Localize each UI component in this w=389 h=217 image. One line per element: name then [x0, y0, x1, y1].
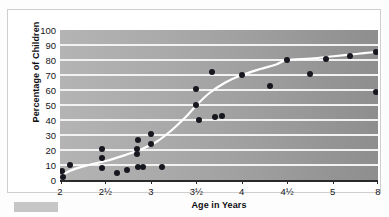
data-point [209, 69, 215, 75]
data-point [212, 114, 218, 120]
x-axis-ticks [60, 180, 378, 185]
data-point [193, 102, 199, 108]
data-point [373, 49, 378, 55]
x-tick [151, 180, 152, 184]
data-point [114, 170, 120, 176]
x-tick-label: 2 [40, 186, 80, 197]
figure-frame: Percentage of Children 01020304050607080… [7, 9, 381, 193]
data-point [140, 164, 146, 170]
y-tick-label: 20 [30, 145, 56, 156]
y-tick-label: 90 [30, 40, 56, 51]
y-axis-tick-labels: 0102030405060708090100 [30, 30, 56, 180]
y-tick-label: 70 [30, 70, 56, 81]
y-tick-label: 0 [30, 175, 56, 186]
data-point [67, 162, 73, 168]
data-point [159, 164, 165, 170]
y-tick-label: 100 [30, 25, 56, 36]
x-tick [287, 180, 288, 184]
x-tick [196, 180, 197, 184]
gridline [60, 104, 378, 106]
gridline [60, 119, 378, 121]
data-point [99, 146, 105, 152]
figure-container: Percentage of Children 01020304050607080… [0, 0, 389, 217]
y-tick-label: 60 [30, 85, 56, 96]
x-tick [61, 180, 62, 184]
data-point [239, 72, 245, 78]
data-point [196, 117, 202, 123]
x-tick [333, 180, 334, 184]
data-point [99, 165, 105, 171]
gridline [60, 134, 378, 136]
data-point [284, 57, 290, 63]
x-tick [242, 180, 243, 184]
gridline [60, 89, 378, 91]
x-tick-label: 5 [313, 186, 353, 197]
plot-area [60, 30, 378, 180]
data-point [99, 155, 105, 161]
x-axis-title: Age in Years [60, 200, 378, 210]
gridline [60, 44, 378, 46]
x-tick [105, 180, 106, 184]
data-point [148, 141, 154, 147]
data-point [148, 131, 154, 137]
gridline [60, 149, 378, 151]
gridline [60, 59, 378, 61]
x-tick-label: 3½ [176, 186, 216, 197]
x-axis-tick-labels: 22½33½44½58 [60, 186, 378, 199]
data-point [323, 56, 329, 62]
gridline [60, 74, 378, 76]
y-tick-label: 40 [30, 115, 56, 126]
x-tick-label: 4 [222, 186, 262, 197]
data-point [373, 89, 378, 95]
y-tick-label: 10 [30, 160, 56, 171]
data-point [347, 53, 353, 59]
gridline [60, 164, 378, 166]
x-tick-label: 4½ [267, 186, 307, 197]
data-point [193, 86, 199, 92]
x-tick-label: 8 [358, 186, 389, 197]
x-tick-label: 3 [131, 186, 171, 197]
data-point [267, 83, 273, 89]
y-tick-label: 50 [30, 100, 56, 111]
data-point [307, 71, 313, 77]
y-tick-label: 30 [30, 130, 56, 141]
data-point [124, 167, 130, 173]
x-tick-label: 2½ [85, 186, 125, 197]
y-tick-label: 80 [30, 55, 56, 66]
x-tick [377, 180, 378, 184]
caption-swatch [14, 202, 58, 212]
data-point [135, 137, 141, 143]
data-point [134, 151, 140, 157]
data-point [219, 113, 225, 119]
